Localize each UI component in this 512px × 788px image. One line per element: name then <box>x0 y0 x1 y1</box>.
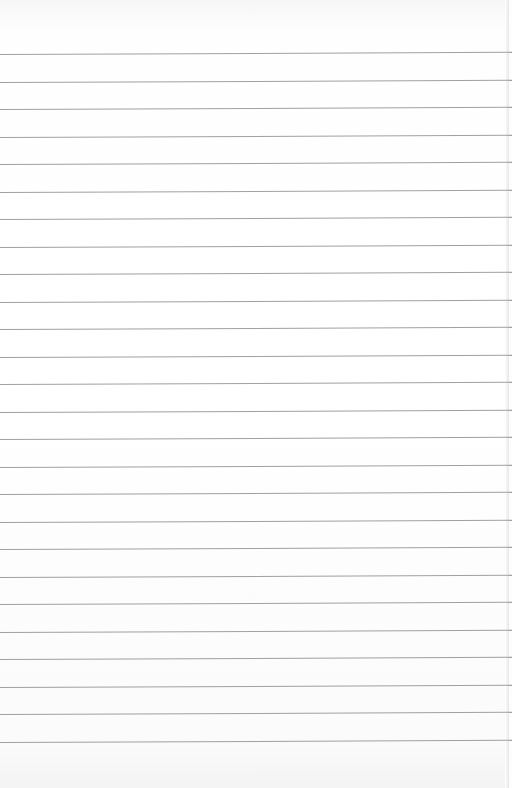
ruled-line <box>0 244 512 247</box>
ruled-line <box>0 712 512 715</box>
ruled-line <box>0 574 512 577</box>
ruled-line <box>0 657 512 660</box>
ruled-line <box>0 492 512 495</box>
ruled-line <box>0 134 512 137</box>
ruled-line <box>0 464 512 467</box>
ruled-line <box>0 79 512 82</box>
paper-edge <box>505 0 509 788</box>
ruled-line <box>0 519 512 522</box>
ruled-line <box>0 299 512 302</box>
ruled-line <box>0 272 512 275</box>
ruled-line <box>0 107 512 110</box>
ruled-line <box>0 684 512 687</box>
ruled-line <box>0 189 512 192</box>
ruled-line <box>0 382 512 385</box>
ruled-line <box>0 327 512 330</box>
ruled-line <box>0 354 512 357</box>
ruled-line <box>0 437 512 440</box>
ruled-line <box>0 547 512 550</box>
ruled-line <box>0 629 512 632</box>
ruled-line <box>0 409 512 412</box>
ruled-line <box>0 739 512 742</box>
ruled-line <box>0 217 512 220</box>
ruled-line <box>0 52 512 55</box>
ruled-line <box>0 602 512 605</box>
ruled-line <box>0 162 512 165</box>
